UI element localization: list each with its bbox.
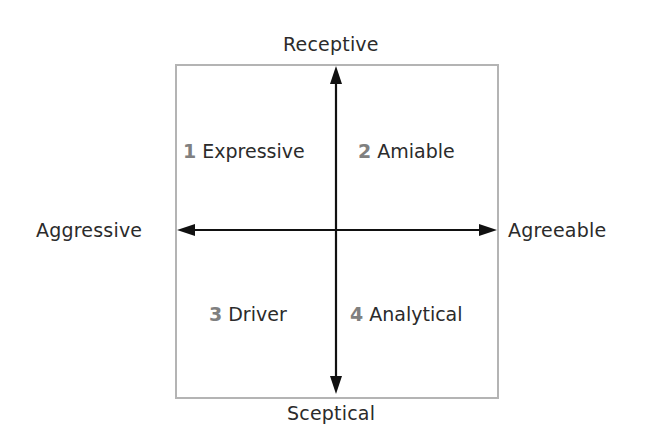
axis-label-top: Receptive xyxy=(283,33,379,55)
quadrant-number: 1 xyxy=(183,140,196,162)
quadrant-label: Amiable xyxy=(377,140,454,162)
quadrant-4: 4Analytical xyxy=(350,303,463,325)
quadrant-label: Analytical xyxy=(369,303,462,325)
arrowhead-up-icon xyxy=(330,66,342,84)
quadrant-diagram: Receptive Sceptical Aggressive Agreeable… xyxy=(0,0,657,444)
quadrant-3: 3Driver xyxy=(209,303,287,325)
axis-label-left: Aggressive xyxy=(36,219,142,241)
axis-label-right: Agreeable xyxy=(508,219,606,241)
quadrant-label: Driver xyxy=(228,303,286,325)
arrowhead-left-icon xyxy=(177,224,195,236)
quadrant-number: 3 xyxy=(209,303,222,325)
quadrant-label: Expressive xyxy=(202,140,304,162)
quadrant-number: 2 xyxy=(358,140,371,162)
quadrant-number: 4 xyxy=(350,303,363,325)
axis-label-bottom: Sceptical xyxy=(287,402,375,424)
quadrant-2: 2Amiable xyxy=(358,140,455,162)
arrowhead-down-icon xyxy=(330,376,342,394)
arrowhead-right-icon xyxy=(479,224,497,236)
quadrant-1: 1Expressive xyxy=(183,140,305,162)
